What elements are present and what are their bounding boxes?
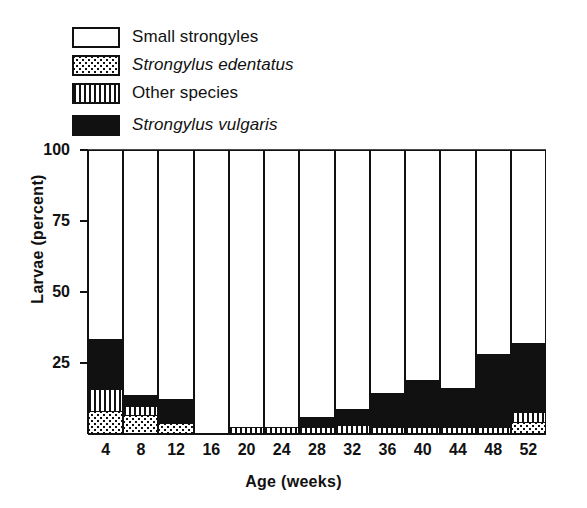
bar-40-weeks[interactable] [405,150,440,434]
bar-segment-black [477,354,510,427]
bar-12-weeks[interactable] [158,150,193,434]
bar-segment-stripes [230,427,263,433]
bar-8-weeks[interactable] [123,150,158,434]
bar-segment-black [159,399,192,423]
bar-segment-black [406,380,439,428]
plot-area [88,150,546,434]
bar-24-weeks[interactable] [264,150,299,434]
bar-segment-dots [124,415,157,433]
bar-segment-stripes [477,427,510,433]
bar-28-weeks[interactable] [299,150,334,434]
bar-segment-black [512,343,545,412]
bar-segment-black [89,339,122,389]
bar-segment-dots [159,423,192,433]
bar-segment-stripes [336,425,369,433]
bar-segment-stripes [441,427,474,433]
bar-segment-stripes [512,412,545,422]
bar-segment-black [124,395,157,406]
bar-segment-stripes [89,389,122,411]
bar-segment-stripes [265,427,298,433]
bar-segment-black [441,388,474,428]
bar-segment-stripes [124,406,157,415]
bar-segment-stripes [406,427,439,433]
bar-44-weeks[interactable] [440,150,475,434]
bar-segment-dots [512,422,545,433]
bar-48-weeks[interactable] [476,150,511,434]
stacked-bar-chart: Larvae (percent) Age (weeks) 100755025 4… [0,0,587,508]
bar-segment-black [336,409,369,425]
bar-36-weeks[interactable] [370,150,405,434]
bar-4-weeks[interactable] [88,150,123,434]
bar-32-weeks[interactable] [335,150,370,434]
bar-segment-stripes [371,427,404,433]
bar-segment-black [371,393,404,427]
bar-segment-stripes [300,427,333,433]
bar-segment-black [300,417,333,427]
bar-16-weeks[interactable] [194,150,229,434]
bar-segment-dots [89,411,122,433]
bar-20-weeks[interactable] [229,150,264,434]
bar-52-weeks[interactable] [511,150,546,434]
